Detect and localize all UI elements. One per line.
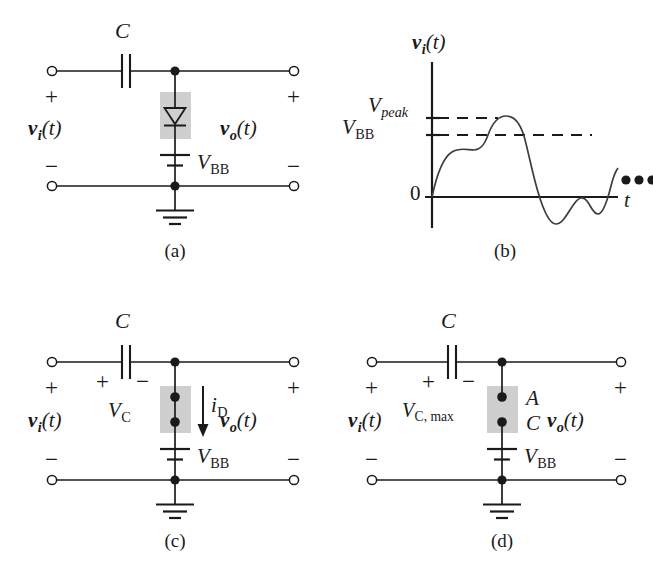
panel-c-plus-right: + <box>287 376 300 399</box>
panel-c-capacitor-label: C <box>115 310 130 332</box>
panel-d-cap-minus: − <box>462 370 475 393</box>
panel-a-output-sub: o <box>229 127 237 143</box>
panel-d-cap-voltage-label: VC, max <box>402 400 454 424</box>
panel-d-minus-right: − <box>614 448 627 471</box>
panel-d-output-arg: (t) <box>564 408 584 432</box>
panel-b-yaxis-label: vi(t) <box>412 32 446 56</box>
panel-a: C + − + − vi(t) vo(t) VBB (a) <box>0 0 330 285</box>
panel-d-output-label: vo(t) <box>547 410 584 434</box>
panel-d-source-v: V <box>524 444 537 468</box>
input-terminal-bottom <box>47 475 56 484</box>
short-circuit-dot-cathode <box>170 417 180 427</box>
panel-b-origin-label: 0 <box>410 183 421 204</box>
node-dot-top <box>170 66 179 75</box>
figure-root: C + − + − vi(t) vo(t) VBB (a) <box>0 0 653 571</box>
panel-c-source-v: V <box>197 444 210 468</box>
panel-a-output-v: v <box>220 116 229 140</box>
open-circuit-dot-cathode <box>497 417 507 427</box>
node-dot-top <box>497 357 506 366</box>
panel-d-cap-plus: + <box>422 370 435 393</box>
panel-d-cap-voltage-sub: C, max <box>414 409 454 424</box>
input-terminal-top <box>47 357 56 366</box>
panel-a-output-label: vo(t) <box>220 118 257 142</box>
panel-d-output-v: v <box>547 408 556 432</box>
panel-b-vpeak-sub: peak <box>381 104 408 120</box>
input-terminal-top <box>47 66 56 75</box>
panel-d-caption: (d) <box>462 530 542 552</box>
panel-a-input-label: vi(t) <box>28 118 62 142</box>
panel-c-plus-left: + <box>45 376 58 399</box>
waveform-curve <box>432 116 618 224</box>
ellipsis-dot-2 <box>634 175 643 184</box>
panel-c-input-label: vi(t) <box>28 410 62 434</box>
panel-c-cap-voltage-sub: C <box>121 409 131 425</box>
output-terminal-top <box>616 357 625 366</box>
node-dot-top <box>170 357 179 366</box>
panel-d-source-label: VBB <box>524 446 556 470</box>
output-terminal-top <box>289 66 298 75</box>
ellipsis-dot-3 <box>647 175 653 184</box>
panel-d: C + − VC, max + − + − vi(t) vo(t) A C VB… <box>320 300 653 571</box>
output-terminal-bottom <box>616 475 625 484</box>
panel-c-input-v: v <box>28 408 37 432</box>
panel-a-minus-left: − <box>45 155 58 178</box>
panel-c-input-arg: (t) <box>42 408 62 432</box>
output-terminal-bottom <box>289 475 298 484</box>
ellipsis-dot-1 <box>621 175 630 184</box>
panel-a-input-arg: (t) <box>42 116 62 140</box>
panel-c-minus-left: − <box>45 448 58 471</box>
panel-c-cap-minus: − <box>136 370 149 393</box>
panel-d-anode-label: A <box>526 388 539 409</box>
panel-b-vpeak-label: Vpeak <box>368 95 408 119</box>
panel-b-xaxis-label: t <box>624 190 630 211</box>
panel-a-minus-right: − <box>287 155 300 178</box>
panel-a-source-v: V <box>197 150 210 174</box>
output-terminal-top <box>289 357 298 366</box>
panel-d-cap-voltage-v: V <box>402 399 414 421</box>
panel-a-source-label: VBB <box>197 152 229 176</box>
panel-d-plus-right: + <box>614 376 627 399</box>
panel-c-source-sub: BB <box>210 455 229 471</box>
panel-a-plus-left: + <box>45 85 58 108</box>
panel-d-output-sub: o <box>556 419 564 435</box>
panel-c-current-label: iD <box>211 395 228 419</box>
panel-d-source-sub: BB <box>537 455 556 471</box>
panel-c-source-label: VBB <box>197 446 229 470</box>
panel-a-input-v: v <box>28 116 37 140</box>
panel-b-vbb-v: V <box>342 115 355 139</box>
panel-a-caption: (a) <box>135 240 215 262</box>
panel-b-yaxis-v: v <box>412 30 421 54</box>
panel-c-output-sub: o <box>229 419 237 435</box>
panel-d-capacitor-label: C <box>441 310 456 332</box>
panel-a-source-sub: BB <box>210 161 229 177</box>
panel-a-plus-right: + <box>287 85 300 108</box>
panel-d-input-arg: (t) <box>362 408 382 432</box>
panel-b-caption: (b) <box>465 240 545 262</box>
panel-d-cathode-label: C <box>526 413 540 434</box>
panel-a-capacitor-label: C <box>115 20 130 42</box>
panel-b-vbb-label: VBB <box>342 117 374 141</box>
panel-b: vi(t) Vpeak VBB 0 t (b) <box>330 0 653 285</box>
current-arrow-head-icon <box>198 424 209 437</box>
panel-c: C + − VC + − + − vi(t) vo(t) iD VBB (c) <box>0 300 330 571</box>
short-circuit-dot-anode <box>170 392 180 402</box>
panel-b-yaxis-arg: (t) <box>426 30 446 54</box>
panel-d-input-label: vi(t) <box>348 410 382 434</box>
panel-c-cap-voltage-label: VC <box>108 400 131 424</box>
panel-b-vbb-sub: BB <box>355 126 374 142</box>
input-terminal-bottom <box>47 181 56 190</box>
panel-c-cap-plus: + <box>96 370 109 393</box>
output-terminal-bottom <box>289 181 298 190</box>
panel-c-output-arg: (t) <box>237 408 257 432</box>
panel-d-minus-left: − <box>365 448 378 471</box>
panel-d-input-v: v <box>348 408 357 432</box>
input-terminal-top <box>367 357 376 366</box>
input-terminal-bottom <box>367 475 376 484</box>
panel-c-current-sub: D <box>217 404 228 420</box>
panel-b-vpeak-v: V <box>368 93 381 117</box>
panel-a-output-arg: (t) <box>237 116 257 140</box>
open-circuit-dot-anode <box>497 392 507 402</box>
panel-c-cap-voltage-v: V <box>108 398 121 422</box>
panel-c-minus-right: − <box>287 448 300 471</box>
panel-c-current-i: i <box>211 393 217 417</box>
